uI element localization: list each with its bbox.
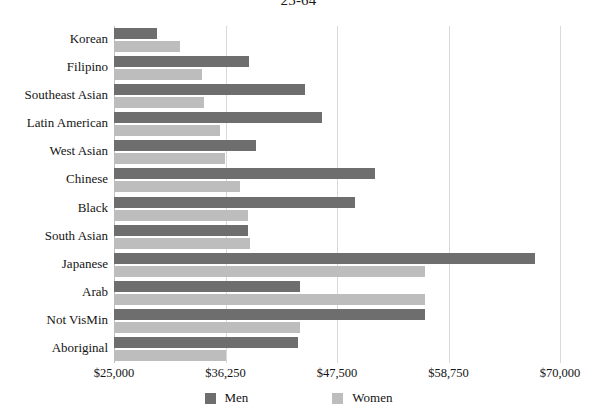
category-label: Filipino [0,60,108,74]
category-label: Arab [0,285,108,299]
category-label: Aboriginal [0,341,108,355]
bar-men [114,225,248,236]
bar-women [114,97,204,108]
legend-item-women[interactable]: Women [332,391,392,405]
bar-women [114,69,202,80]
x-tick-label: $47,500 [317,366,358,380]
bar-women [114,266,425,277]
chart-title: 25-64 [0,0,597,8]
bar-women [114,153,225,164]
category-label: Korean [0,32,108,46]
bar-men [114,112,322,123]
x-tick-label: $58,750 [428,366,469,380]
chart-container: 25-64 KoreanFilipinoSoutheast AsianLatin… [0,0,597,408]
bar-women [114,41,180,52]
bar-men [114,197,355,208]
x-tick-label: $36,250 [205,366,246,380]
category-axis-labels: KoreanFilipinoSoutheast AsianLatin Ameri… [0,26,108,363]
bar-men [114,309,425,320]
bar-men [114,28,157,39]
bar-women [114,350,226,361]
x-axis-ticks: $25,000$36,250$47,500$58,750$70,000 [0,366,597,386]
category-label: South Asian [0,229,108,243]
bar-men [114,337,298,348]
category-label: Latin American [0,116,108,130]
legend-label: Women [352,391,392,405]
category-label: Not VisMin [0,313,108,327]
plot-area [114,26,560,363]
legend-label: Men [225,391,249,405]
bar-men [114,140,256,151]
category-label: West Asian [0,144,108,158]
bar-women [114,210,248,221]
x-tick-label: $25,000 [94,366,135,380]
legend-swatch-icon [205,393,216,404]
category-label: Chinese [0,172,108,186]
bar-men [114,168,375,179]
bar-rows [114,26,560,363]
bar-men [114,84,305,95]
category-label: Japanese [0,257,108,271]
bar-women [114,181,240,192]
x-tick-label: $70,000 [540,366,581,380]
gridline [560,26,561,363]
legend-item-men[interactable]: Men [205,391,249,405]
category-label: Black [0,201,108,215]
bar-women [114,294,425,305]
bar-men [114,281,300,292]
bar-women [114,238,250,249]
bar-men [114,253,535,264]
legend-swatch-icon [332,393,343,404]
category-label: Southeast Asian [0,88,108,102]
bar-women [114,322,300,333]
chart-legend: MenWomen [0,388,597,408]
bar-women [114,125,220,136]
bar-men [114,56,249,67]
